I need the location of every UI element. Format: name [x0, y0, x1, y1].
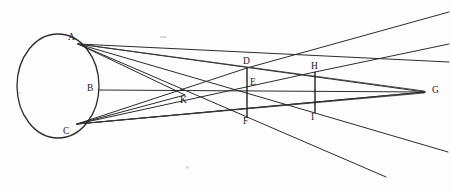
ray-A-to-I [78, 44, 315, 113]
ray-group [77, 12, 449, 177]
point-label-G: G [432, 86, 439, 96]
ray-C-through-H-out [315, 44, 449, 72]
paper-speck-1 [160, 36, 167, 38]
ray-C-to-K [77, 95, 185, 124]
point-label-I: I [311, 113, 314, 123]
point-label-C: C [63, 127, 70, 137]
point-label-H: H [311, 62, 318, 72]
ray-C-to-H [77, 72, 315, 124]
ray-A-to-F [78, 44, 247, 117]
optical-axis-B-G [98, 90, 425, 92]
point-label-A: A [68, 33, 75, 43]
optical-axis-group [98, 90, 425, 92]
point-label-D: D [243, 57, 250, 67]
paper-speck-2 [186, 166, 189, 169]
point-label-F: F [243, 117, 248, 127]
ray-diagram-figure: ABCKDEFHIG [0, 0, 451, 190]
ray-A-through-F-out [247, 117, 386, 177]
ray-A-upper-edge [78, 44, 449, 62]
point-label-K: K [180, 96, 187, 106]
point-label-E: E [250, 78, 256, 88]
ray-A-through-I-out [315, 113, 448, 152]
ray-C-upper-fan-1 [77, 93, 424, 124]
paper-speck-3 [18, 92, 21, 94]
ray-C-to-D [77, 68, 247, 124]
point-label-B: B [87, 84, 94, 94]
ray-C-through-D-out [247, 12, 449, 68]
diagram-canvas [0, 0, 451, 190]
